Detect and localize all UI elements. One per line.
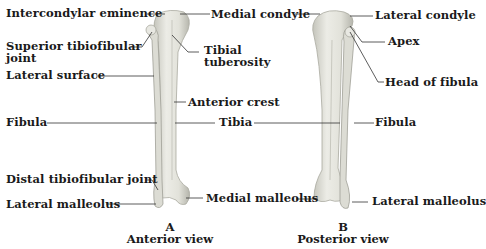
label-fibula-a: Fibula — [6, 116, 47, 129]
label-tibia: Tibia — [219, 116, 252, 129]
label-apex: Apex — [388, 35, 420, 48]
label-lateral-surface: Lateral surface — [6, 69, 105, 82]
label-medial-condyle: Medial condyle — [211, 8, 310, 21]
caption-posterior-view: Posterior view — [283, 233, 403, 246]
label-lateral-malleolus-b: Lateral malleolus — [372, 195, 486, 208]
label-lateral-condyle: Lateral condyle — [375, 9, 476, 22]
label-tibial-tuberosity-2: tuberosity — [204, 56, 271, 69]
label-fibula-b: Fibula — [375, 116, 416, 129]
label-medial-malleolus: Medial malleolus — [206, 192, 318, 205]
posterior-view-bones — [313, 11, 355, 209]
label-superior-tibiofibular-joint-2: joint — [6, 52, 36, 65]
caption-anterior-view: Anterior view — [110, 233, 230, 246]
label-head-of-fibula: Head of fibula — [385, 76, 478, 89]
label-intercondylar-eminence: Intercondylar eminence — [6, 7, 162, 20]
label-anterior-crest: Anterior crest — [188, 96, 280, 109]
label-distal-tibiofibular-joint: Distal tibiofibular joint — [6, 173, 158, 186]
label-lateral-malleolus-a: Lateral malleolus — [6, 198, 120, 211]
